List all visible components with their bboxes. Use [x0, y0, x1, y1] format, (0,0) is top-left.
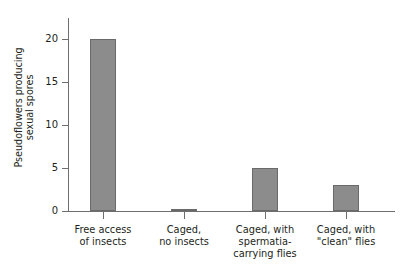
y-tick-label-5: 5: [30, 163, 58, 173]
x-tick-mark-0: [103, 212, 104, 219]
y-tick-mark-20: [62, 39, 69, 40]
bar-caged-with-spermatia-carrying-flies: [252, 168, 278, 211]
y-axis-line: [68, 18, 69, 212]
y-tick-mark-5: [62, 168, 69, 169]
x-axis-label-line-3: carrying flies: [210, 248, 320, 260]
y-tick-mark-0: [62, 211, 69, 212]
x-tick-mark-2: [265, 212, 266, 219]
bar-caged-with-clean-flies: [333, 185, 359, 211]
y-tick-label-20: 20: [30, 34, 58, 44]
bar-free-access-of-insects: [90, 39, 116, 211]
x-tick-mark-3: [346, 212, 347, 219]
bar-chart: Pseudoflowers producing sexual spores 0 …: [0, 0, 412, 273]
y-tick-mark-15: [62, 82, 69, 83]
y-tick-label-10: 10: [30, 120, 58, 130]
x-axis-label-line-2: "clean" flies: [291, 236, 401, 248]
bar-caged-no-insects: [171, 209, 197, 211]
y-tick-mark-10: [62, 125, 69, 126]
x-axis-label-caged-with-clean-flies: Caged, with"clean" flies: [291, 224, 401, 248]
plot-area: 0 5 10 15 20 Free accessof insects Caged…: [0, 0, 412, 273]
y-tick-label-0: 0: [30, 206, 58, 216]
y-tick-label-15: 15: [30, 77, 58, 87]
x-axis-label-line-1: Caged, with: [291, 224, 401, 236]
x-tick-mark-1: [184, 212, 185, 219]
